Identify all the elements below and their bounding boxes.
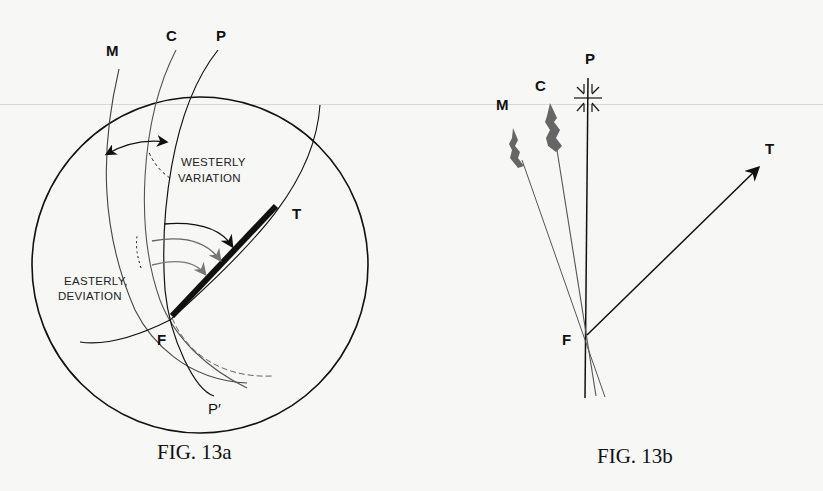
label-f: F xyxy=(157,331,166,348)
label-easterly: EASTERLY, xyxy=(64,275,128,287)
label-f-b: F xyxy=(562,331,571,348)
label-c: C xyxy=(166,27,177,44)
label-westerly: WESTERLY xyxy=(181,156,246,168)
label-m: M xyxy=(106,42,119,59)
label-t-b: T xyxy=(765,140,774,157)
celestial-sphere xyxy=(32,97,368,433)
label-t: T xyxy=(292,205,301,222)
arc-magnetic xyxy=(152,262,205,274)
label-variation: VARIATION xyxy=(178,172,241,184)
dashed-curve xyxy=(172,318,272,376)
vector-ft xyxy=(587,168,758,335)
label-deviation: DEVIATION xyxy=(58,290,122,302)
needle-m-icon xyxy=(509,128,524,168)
label-c-b: C xyxy=(535,77,546,94)
caption-13a: FIG. 13a xyxy=(157,440,232,464)
label-p-prime: P′ xyxy=(208,400,221,417)
figure-13a: M C P T F P′ WESTERLY VARIATION EASTERLY… xyxy=(32,27,368,464)
label-p: P xyxy=(216,27,226,44)
arc-compass xyxy=(152,239,220,260)
needle-c-icon xyxy=(545,103,562,152)
meridian-m xyxy=(106,69,247,383)
line-c xyxy=(557,150,596,396)
label-p-b: P xyxy=(585,50,595,67)
figure-13b: P C M T F FIG. 13b xyxy=(496,50,774,468)
caption-13b: FIG. 13b xyxy=(597,444,673,468)
diagram-canvas: M C P T F P′ WESTERLY VARIATION EASTERLY… xyxy=(0,0,823,491)
variation-pointer xyxy=(148,150,170,178)
deviation-pointer xyxy=(137,236,142,268)
line-p xyxy=(585,78,588,398)
label-m-b: M xyxy=(496,96,509,113)
line-m xyxy=(522,160,605,397)
variation-arc xyxy=(107,141,166,154)
great-circle-t xyxy=(80,105,320,343)
course-line-ft xyxy=(172,206,276,316)
